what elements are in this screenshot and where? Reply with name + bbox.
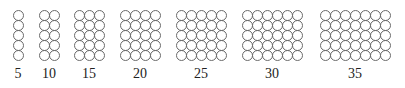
circle-group-10 — [39, 10, 59, 60]
circle-icon — [94, 50, 105, 61]
circle-group-20 — [120, 10, 160, 60]
group-label: 35 — [320, 66, 390, 82]
circle-icon — [13, 50, 24, 61]
circle-group-5 — [13, 10, 23, 60]
circle-grid — [39, 10, 59, 60]
circle-grid — [320, 10, 390, 60]
circle-icon — [49, 50, 60, 61]
circle-grid — [176, 10, 226, 60]
circle-icon — [292, 50, 303, 61]
circle-group-30 — [242, 10, 302, 60]
group-label: 20 — [120, 66, 160, 82]
circle-icon — [380, 50, 391, 61]
group-label: 30 — [242, 66, 302, 82]
group-label: 15 — [74, 66, 104, 82]
circle-grid — [242, 10, 302, 60]
circle-grid — [13, 10, 23, 60]
circle-group-35 — [320, 10, 390, 60]
circle-group-25 — [176, 10, 226, 60]
group-label: 25 — [176, 66, 226, 82]
group-label: 5 — [13, 66, 23, 82]
circle-icon — [150, 50, 161, 61]
circle-icon — [216, 50, 227, 61]
circle-arrays-diagram: 5101520253035 — [0, 0, 405, 88]
circle-group-15 — [74, 10, 104, 60]
circle-grid — [74, 10, 104, 60]
group-label: 10 — [39, 66, 59, 82]
circle-grid — [120, 10, 160, 60]
